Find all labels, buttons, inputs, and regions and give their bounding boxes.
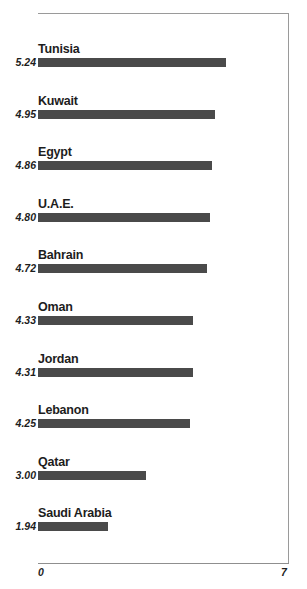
bar-category-label: Lebanon xyxy=(38,404,89,417)
bar-row: Jordan4.31 xyxy=(0,343,307,377)
bar xyxy=(38,471,146,480)
bar-value-label: 4.33 xyxy=(16,315,36,325)
bar-value-label: 4.95 xyxy=(16,109,36,119)
plot-area: Tunisia5.24Kuwait4.95Egypt4.86U.A.E.4.80… xyxy=(0,0,307,589)
bar xyxy=(38,110,215,119)
bar-category-label: Kuwait xyxy=(38,95,78,108)
bar xyxy=(38,368,193,377)
bar-value-label: 5.24 xyxy=(16,57,36,67)
bar-row: Lebanon4.25 xyxy=(0,394,307,428)
bar-category-label: Egypt xyxy=(38,146,72,159)
bar-row: Saudi Arabia1.94 xyxy=(0,497,307,531)
bar-category-label: Jordan xyxy=(38,353,78,366)
bar-row: Oman4.33 xyxy=(0,291,307,325)
bar-row: U.A.E.4.80 xyxy=(0,188,307,222)
bar-value-label: 4.86 xyxy=(16,160,36,170)
bar-row: Qatar3.00 xyxy=(0,446,307,480)
bar xyxy=(38,264,207,273)
bar-row: Tunisia5.24 xyxy=(0,33,307,67)
bar xyxy=(38,522,108,531)
bar-category-label: Tunisia xyxy=(38,43,79,56)
x-axis-line xyxy=(38,563,289,564)
bar xyxy=(38,58,226,67)
bar-value-label: 4.72 xyxy=(16,263,36,273)
bar xyxy=(38,161,212,170)
x-axis-tick-max: 7 xyxy=(281,566,287,578)
bar-category-label: Qatar xyxy=(38,456,70,469)
bar-category-label: Oman xyxy=(38,301,73,314)
bar-value-label: 4.25 xyxy=(16,418,36,428)
bar-category-label: Bahrain xyxy=(38,249,83,262)
bar-chart: Tunisia5.24Kuwait4.95Egypt4.86U.A.E.4.80… xyxy=(0,0,307,589)
bar-row: Egypt4.86 xyxy=(0,136,307,170)
bar-category-label: U.A.E. xyxy=(38,198,74,211)
bar-value-label: 4.31 xyxy=(16,367,36,377)
bar-row: Bahrain4.72 xyxy=(0,239,307,273)
x-axis-tick-min: 0 xyxy=(38,566,44,578)
bar-value-label: 3.00 xyxy=(16,470,36,480)
bar xyxy=(38,213,210,222)
bar-value-label: 4.80 xyxy=(16,212,36,222)
bar xyxy=(38,419,190,428)
bar-value-label: 1.94 xyxy=(16,521,36,531)
bar-row: Kuwait4.95 xyxy=(0,85,307,119)
bar-category-label: Saudi Arabia xyxy=(38,507,112,520)
bar xyxy=(38,316,193,325)
